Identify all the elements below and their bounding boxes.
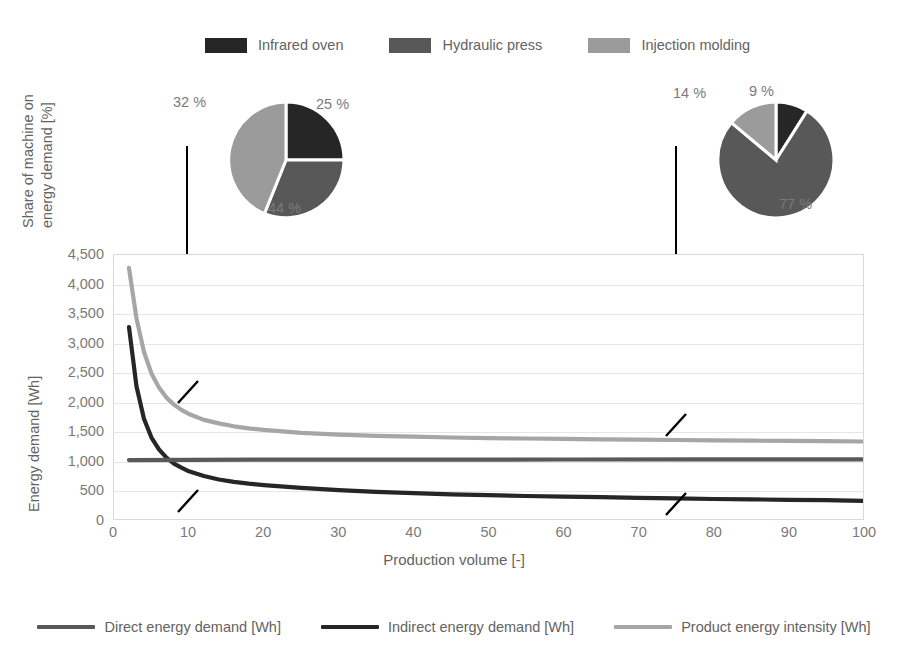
legend-item-hydraulic-press: Hydraulic press (389, 37, 542, 53)
pie-low-label-injection-molding: 32 % (173, 94, 206, 110)
ytick-500: 500 (40, 482, 104, 498)
legend-item-injection-molding: Injection molding (588, 37, 750, 53)
pie-high-label-infrared-oven: 9 % (749, 83, 774, 99)
share-axis-title-line1: Share of machine on (20, 94, 36, 228)
pie-low-label-infrared-oven: 25 % (316, 96, 349, 112)
legend-label: Injection molding (641, 37, 750, 53)
series-legend: Direct energy demand [Wh] Indirect energ… (0, 614, 908, 640)
ytick-4500: 4,500 (40, 246, 104, 262)
xtick-0: 0 (83, 524, 143, 540)
plot-area (113, 254, 864, 520)
ytick-1500: 1,500 (40, 423, 104, 439)
legend-label: Hydraulic press (442, 37, 542, 53)
xtick-60: 60 (534, 524, 594, 540)
xtick-50: 50 (459, 524, 519, 540)
legend-item-indirect-energy-demand: Indirect energy demand [Wh] (321, 619, 574, 635)
legend-label: Product energy intensity [Wh] (681, 619, 870, 635)
series-indirect-energy-demand (129, 327, 863, 501)
legend-label: Infrared oven (258, 37, 343, 53)
legend-swatch-icon (389, 38, 431, 53)
xtick-90: 90 (759, 524, 819, 540)
legend-line-icon (614, 625, 672, 629)
legend-item-direct-energy-demand: Direct energy demand [Wh] (37, 619, 281, 635)
pie-legend: Infrared oven Hydraulic press Injection … (205, 34, 865, 56)
legend-line-icon (321, 625, 379, 629)
legend-item-product-energy-intensity: Product energy intensity [Wh] (614, 619, 870, 635)
xtick-80: 80 (684, 524, 744, 540)
pie-high-label-hydraulic-press: 77 % (779, 196, 812, 212)
ytick-3000: 3,000 (40, 335, 104, 351)
figure-root: Infrared oven Hydraulic press Injection … (0, 0, 908, 667)
series-direct-energy-demand (129, 459, 863, 460)
pie-high-label-injection-molding: 14 % (673, 85, 706, 101)
ytick-2000: 2,000 (40, 394, 104, 410)
series-canvas (114, 255, 863, 519)
xtick-30: 30 (308, 524, 368, 540)
ytick-4000: 4,000 (40, 276, 104, 292)
ytick-2500: 2,500 (40, 364, 104, 380)
series-product-energy-intensity (129, 268, 863, 442)
xtick-20: 20 (233, 524, 293, 540)
xaxis-title: Production volume [-] (0, 551, 908, 568)
share-axis-title-line2: energy demand [%] (39, 102, 55, 228)
ytick-1000: 1,000 (40, 453, 104, 469)
xtick-40: 40 (383, 524, 443, 540)
legend-label: Direct energy demand [Wh] (104, 619, 281, 635)
xtick-10: 10 (158, 524, 218, 540)
legend-label: Indirect energy demand [Wh] (388, 619, 574, 635)
legend-swatch-icon (205, 38, 247, 53)
xtick-100: 100 (834, 524, 894, 540)
xtick-70: 70 (609, 524, 669, 540)
pie-chart-high-volume (714, 98, 838, 222)
legend-item-infrared-oven: Infrared oven (205, 37, 343, 53)
pie-high-volume-svg (714, 98, 838, 222)
ytick-3500: 3,500 (40, 305, 104, 321)
legend-line-icon (37, 625, 95, 629)
pie-low-label-hydraulic-press: 44 % (268, 200, 301, 216)
legend-swatch-icon (588, 38, 630, 53)
